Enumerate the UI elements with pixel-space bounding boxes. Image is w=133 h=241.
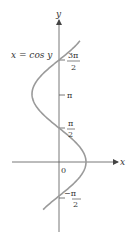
tick-label-pi: π — [67, 91, 72, 100]
chart: y x 0 x = cos y 3π 2 π π 2 −π 2 — [0, 0, 133, 241]
tick-label-pi-2-den: 2 — [68, 130, 73, 139]
tick-label-3pi-2-den: 2 — [71, 63, 76, 72]
origin-label: 0 — [61, 166, 66, 175]
tick-label-neg-pi-2-den: 2 — [73, 200, 78, 209]
y-axis-label: y — [55, 9, 62, 19]
tick-label-3pi-2-num: 3π — [68, 51, 78, 60]
tick-label-neg-pi-2-num: −π — [64, 189, 76, 198]
tick-label-pi-2-num: π — [68, 119, 73, 128]
equation-label: x = cos y — [11, 50, 53, 60]
x-axis-label: x — [120, 157, 125, 167]
